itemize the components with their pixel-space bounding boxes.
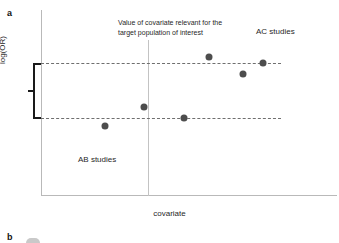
data-point	[181, 115, 188, 122]
panel-letter-b: b	[7, 233, 13, 242]
covariate-annotation-text: Value of covariate relevant for the targ…	[118, 18, 224, 37]
data-point	[206, 54, 213, 61]
y-axis-line	[41, 10, 42, 196]
data-point	[260, 60, 267, 67]
lower-dashed-reference-line	[41, 118, 281, 119]
x-axis-label: covariate	[0, 209, 339, 218]
panel-b-fragment	[26, 238, 40, 243]
ac-studies-label: AC studies	[256, 27, 295, 36]
range-bracket	[33, 63, 41, 119]
data-point	[102, 123, 109, 130]
upper-dashed-reference-line	[41, 63, 281, 64]
data-point	[141, 104, 148, 111]
figure-panel-a: a log(OR) covariate Value of covariate r…	[0, 0, 339, 243]
y-axis-label: log(OR)	[0, 20, 7, 80]
x-axis-line	[41, 195, 337, 196]
bracket-center-tick	[28, 90, 34, 92]
panel-letter-a: a	[7, 9, 12, 18]
data-point	[240, 71, 247, 78]
ab-studies-label: AB studies	[78, 155, 116, 164]
